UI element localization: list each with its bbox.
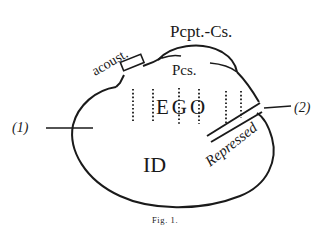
label-marker-1: (1)	[12, 120, 29, 136]
label-pcpt-cs: Pcpt.-Cs.	[170, 22, 232, 41]
right-upper-outline	[237, 72, 259, 102]
marker-2-line	[264, 106, 291, 108]
ego-id-diagram: Pcpt.-Cs. acoust. Pcs. EGO ID Repressed …	[0, 0, 335, 238]
cap-inner-stroke	[162, 55, 181, 58]
pcpt-cs-cap	[158, 46, 237, 72]
label-pcs: Pcs.	[172, 62, 197, 78]
label-ego: EGO	[156, 95, 208, 119]
label-acoust: acoust.	[89, 46, 131, 79]
upper-left-outline	[116, 75, 124, 87]
label-marker-2: (2)	[294, 100, 311, 116]
figure-caption: Fig. 1.	[152, 215, 178, 225]
label-repressed: Repressed	[201, 119, 260, 170]
label-id: ID	[143, 152, 166, 177]
pcs-arc	[210, 63, 237, 72]
diagram-canvas: Pcpt.-Cs. acoust. Pcs. EGO ID Repressed …	[0, 0, 335, 238]
